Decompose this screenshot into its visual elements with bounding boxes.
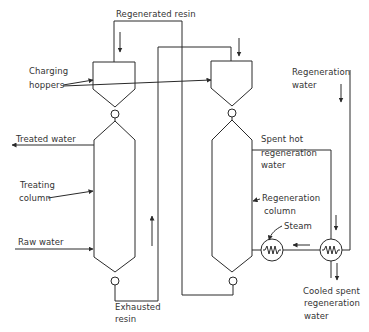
label-regeneration-column-1: Regeneration xyxy=(262,193,320,204)
label-steam: Steam xyxy=(284,221,312,232)
label-treating-column-2: column xyxy=(19,193,51,204)
regeneration-column xyxy=(212,117,252,285)
charging-hopper-right xyxy=(211,61,252,117)
label-exhausted-resin-2: resin xyxy=(115,314,136,325)
label-exhausted-resin-1: Exhausted xyxy=(115,302,161,313)
label-charging-hoppers-2: hoppers xyxy=(29,80,64,91)
label-treating-column-1: Treating xyxy=(20,180,55,191)
label-spent-hot-3: water xyxy=(261,160,286,171)
regeneration-water-line xyxy=(342,70,350,250)
pointer-arrow-icon xyxy=(253,199,260,201)
label-treated-water: Treated water xyxy=(16,134,76,145)
heat-exchanger xyxy=(320,239,342,261)
exhausted-resin-line xyxy=(115,47,231,301)
pointer-arrow-icon xyxy=(63,80,93,85)
ion-exchange-process-diagram: Regenerated resin Charging hoppers Treat… xyxy=(0,0,369,332)
label-regeneration-column-2: column xyxy=(264,206,296,217)
label-spent-hot-1: Spent hot xyxy=(261,134,303,145)
treating-column xyxy=(94,118,135,285)
label-cooled-spent-3: water xyxy=(304,311,329,322)
steam-pointer-icon xyxy=(269,226,282,240)
label-regeneration-water-1: Regeneration xyxy=(292,67,350,78)
steam-heater xyxy=(261,239,283,261)
label-cooled-spent-2: regeneration xyxy=(304,298,360,309)
pointer-arrow-icon xyxy=(48,191,93,198)
diagram-drawing xyxy=(0,0,369,332)
label-charging-hoppers-1: Charging xyxy=(29,66,68,77)
charging-hopper-left xyxy=(93,62,135,118)
label-regenerated-resin: Regenerated resin xyxy=(116,9,196,20)
label-spent-hot-2: regeneration xyxy=(261,148,317,159)
label-cooled-spent-1: Cooled spent xyxy=(303,286,360,297)
label-regeneration-water-2: water xyxy=(292,80,317,91)
label-raw-water: Raw water xyxy=(18,237,64,248)
